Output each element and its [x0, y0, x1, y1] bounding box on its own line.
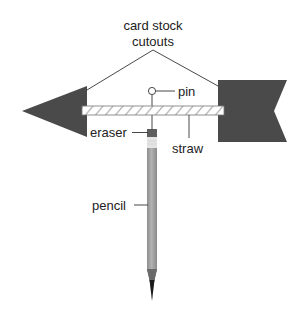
pin-head — [148, 87, 155, 94]
card-stock-leader-lines — [87, 50, 218, 90]
pencil — [147, 129, 157, 301]
pencil-label: pencil — [92, 198, 126, 213]
pin-label: pin — [178, 84, 195, 99]
weather-vane-diagram: card stock cutouts pin eraser straw penc… — [0, 0, 303, 325]
pencil-lead-tip — [150, 280, 155, 301]
card-stock-label-line2: cutouts — [132, 34, 174, 49]
pencil-wood-tone — [147, 269, 157, 281]
pencil-body — [147, 148, 157, 269]
eraser-label: eraser — [90, 125, 128, 140]
straw-label: straw — [172, 141, 204, 156]
ferrule — [147, 137, 157, 148]
arrow-head-cutout — [22, 86, 87, 137]
eraser — [147, 129, 157, 137]
straw — [82, 106, 224, 115]
arrow-tail-cutout — [218, 80, 287, 142]
card-stock-label-line1: card stock — [123, 18, 183, 33]
